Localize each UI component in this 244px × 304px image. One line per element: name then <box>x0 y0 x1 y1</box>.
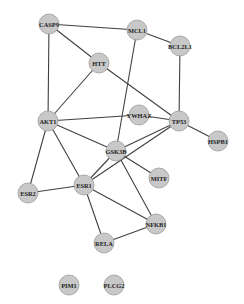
node-label: YWHAZ <box>127 112 152 119</box>
node-pim1[interactable]: PIM1 <box>59 275 79 295</box>
node-casp9[interactable]: CASP9 <box>39 14 59 34</box>
node-label: AKT1 <box>39 118 56 125</box>
node-label: CASP9 <box>39 21 59 28</box>
node-label: PLCG2 <box>104 282 125 289</box>
node-label: HSPB1 <box>208 138 228 145</box>
node-esr2[interactable]: ESR2 <box>18 183 38 203</box>
edge-akt1-esr1 <box>48 121 84 185</box>
node-label: GSK3B <box>106 148 128 155</box>
edge-akt1-gsk3b <box>48 121 116 151</box>
node-label: TP53 <box>172 118 187 125</box>
node-nfkb1[interactable]: NFKB1 <box>146 214 167 234</box>
node-label: NFKB1 <box>146 221 167 228</box>
edge-akt1-esr2 <box>28 121 48 193</box>
node-rela[interactable]: RELA <box>94 233 114 253</box>
edge-mcl1-gsk3b <box>116 30 137 151</box>
node-esr1[interactable]: ESR1 <box>74 175 94 195</box>
node-bcl2l1[interactable]: BCL2L1 <box>168 36 192 56</box>
edge-tp53-gsk3b <box>116 121 179 151</box>
node-hspb1[interactable]: HSPB1 <box>208 131 228 151</box>
node-plcg2[interactable]: PLCG2 <box>104 275 125 295</box>
edge-htt-akt1 <box>48 63 99 121</box>
node-label: ESR1 <box>76 182 92 189</box>
network-diagram: CASP9MCL1BCL2L1HTTAKT1YWHAZTP53HSPB1GSK3… <box>0 0 244 304</box>
node-label: BCL2L1 <box>168 43 192 50</box>
edge-casp9-akt1 <box>48 24 49 121</box>
node-mitf[interactable]: MITF <box>149 168 169 188</box>
edge-casp9-mcl1 <box>49 24 137 30</box>
node-layer: CASP9MCL1BCL2L1HTTAKT1YWHAZTP53HSPB1GSK3… <box>18 14 228 295</box>
node-akt1[interactable]: AKT1 <box>38 111 58 131</box>
edge-bcl2l1-tp53 <box>179 46 180 121</box>
node-htt[interactable]: HTT <box>89 53 109 73</box>
edge-layer <box>28 24 218 243</box>
node-tp53[interactable]: TP53 <box>169 111 189 131</box>
node-label: MITF <box>151 175 168 182</box>
node-label: RELA <box>95 240 113 247</box>
edge-akt1-ywhaz <box>48 115 139 121</box>
node-label: ESR2 <box>20 190 36 197</box>
node-mcl1[interactable]: MCL1 <box>127 20 147 40</box>
node-label: HTT <box>92 60 106 67</box>
node-label: MCL1 <box>128 27 146 34</box>
node-label: PIM1 <box>61 282 77 289</box>
node-ywhaz[interactable]: YWHAZ <box>127 105 152 125</box>
